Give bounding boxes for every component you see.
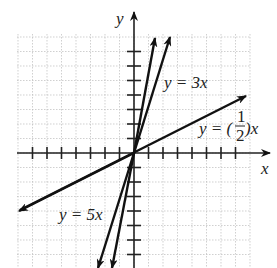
x-axis-label: x — [260, 159, 269, 178]
label-y-3x: y = 3x — [162, 73, 208, 92]
label-y-half-x-prefix: y = ( — [197, 119, 234, 138]
label-y-half-x-suffix: )x — [244, 119, 259, 138]
label-y-5x: y = 5x — [57, 205, 103, 224]
y-axis-label: y — [114, 9, 124, 28]
label-half-denominator: 2 — [236, 126, 245, 145]
coordinate-plane: y x y = 3x y = 5x y = ( 1 2 )x — [0, 0, 277, 268]
